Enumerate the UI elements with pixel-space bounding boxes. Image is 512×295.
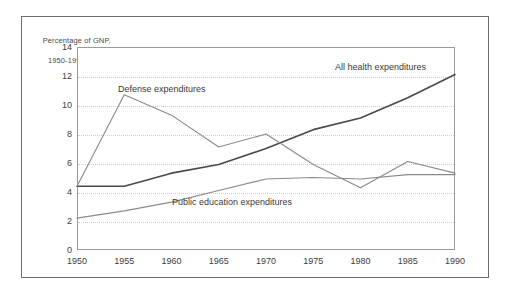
- series-label-public-education-expenditures: Public education expenditures: [172, 197, 292, 207]
- x-tick-label: 1960: [149, 256, 195, 266]
- y-tick-label: 0: [32, 245, 72, 255]
- y-tick-label: 12: [32, 71, 72, 81]
- x-tick-label: 1970: [243, 256, 289, 266]
- chart-figure: Percentage of GNP, 1950-1990 02468101214…: [0, 0, 512, 295]
- y-tick-label: 14: [32, 42, 72, 52]
- x-tick-label: 1985: [385, 256, 431, 266]
- x-tick-label: 1955: [101, 256, 147, 266]
- y-tick-label: 10: [32, 100, 72, 110]
- y-axis-ticks: 02468101214: [30, 47, 72, 250]
- y-tick-label: 2: [32, 216, 72, 226]
- x-tick-label: 1965: [196, 256, 242, 266]
- x-tick-label: 1975: [290, 256, 336, 266]
- y-tick-label: 8: [32, 129, 72, 139]
- series-label-all-health-expenditures: All health expenditures: [335, 62, 426, 72]
- x-axis-ticks: 195019551960196519701975198019851990: [77, 256, 455, 270]
- y-tick-label: 4: [32, 187, 72, 197]
- series-lines: [77, 47, 455, 250]
- series-line-defense-expenditures: [77, 95, 455, 188]
- x-tick-label: 1980: [338, 256, 384, 266]
- x-tick-label: 1990: [432, 256, 478, 266]
- x-tick-label: 1950: [54, 256, 100, 266]
- series-label-defense-expenditures: Defense expenditures: [118, 84, 206, 94]
- y-tick-label: 6: [32, 158, 72, 168]
